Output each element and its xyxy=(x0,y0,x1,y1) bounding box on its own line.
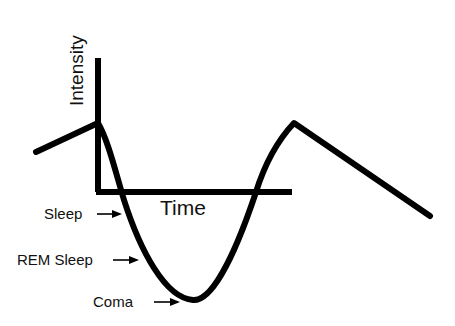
x-axis-label: Time xyxy=(160,196,206,220)
y-axis-label: Intensity xyxy=(66,35,88,106)
annotation-arrows xyxy=(97,210,180,306)
annotation-rem-sleep: REM Sleep xyxy=(17,251,93,268)
annotation-coma: Coma xyxy=(93,293,133,310)
annotation-sleep: Sleep xyxy=(44,205,82,222)
